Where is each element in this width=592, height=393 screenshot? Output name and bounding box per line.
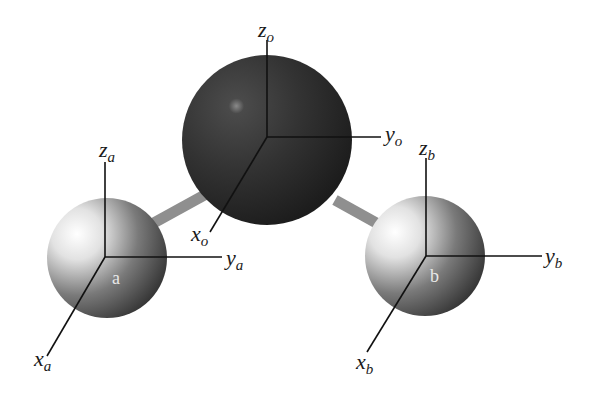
label-z-o: zo [257, 17, 275, 45]
atom-b-label: b [430, 266, 439, 286]
atom-a-label: a [112, 268, 120, 288]
label-y-o: yo [383, 121, 403, 149]
atom-a-sphere [47, 198, 167, 318]
label-x-o: xo [190, 221, 209, 249]
label-z-b: zb [418, 135, 436, 163]
label-y-b: yb [543, 243, 563, 271]
bond-o-b [335, 200, 380, 225]
bond-o-a [150, 192, 210, 225]
diagram-svg: a b zo yo xo za ya xa zb yb xb [0, 0, 592, 393]
molecule-diagram: a b zo yo xo za ya xa zb yb xb [0, 0, 592, 393]
label-z-a: za [98, 137, 115, 165]
label-x-b: xb [355, 349, 374, 377]
label-y-a: ya [224, 245, 243, 273]
label-x-a: xa [33, 346, 51, 374]
